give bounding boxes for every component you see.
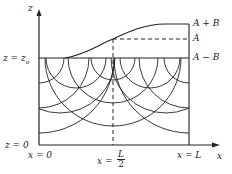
x-axis-arrow-icon xyxy=(212,143,220,148)
z-axis-arrow-icon xyxy=(37,9,42,16)
label-z-equals-z0: z = zo xyxy=(3,54,29,65)
surface-curve xyxy=(65,24,189,58)
label-x-equals-half-prefix: x = xyxy=(97,157,112,166)
label-z-equals-0: z = 0 xyxy=(5,141,29,150)
label-A-plus-B: A + B xyxy=(193,19,219,28)
label-x-equals-L: x = L xyxy=(177,151,201,160)
z-axis-label: z xyxy=(28,4,33,13)
label-z0-sub: o xyxy=(26,58,30,65)
x-axis-label: x xyxy=(217,152,222,161)
fraction-L-over-2: L 2 xyxy=(117,150,125,169)
fraction-denominator: 2 xyxy=(117,160,125,169)
label-z0-text: z = z xyxy=(3,53,26,63)
label-x-equals-0: x = 0 xyxy=(28,151,52,160)
label-A-minus-B: A − B xyxy=(193,53,219,62)
label-A: A xyxy=(193,34,200,43)
